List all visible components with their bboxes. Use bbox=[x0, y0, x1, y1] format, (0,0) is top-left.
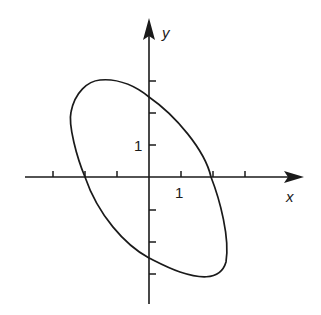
x-tick-label-1: 1 bbox=[175, 185, 183, 200]
y-tick-label-1: 1 bbox=[134, 138, 142, 153]
y-axis-label: y bbox=[162, 25, 170, 40]
diagram-canvas: y x 1 1 bbox=[0, 0, 321, 315]
x-axis-label: x bbox=[286, 189, 294, 204]
ellipse-plot bbox=[0, 0, 321, 315]
